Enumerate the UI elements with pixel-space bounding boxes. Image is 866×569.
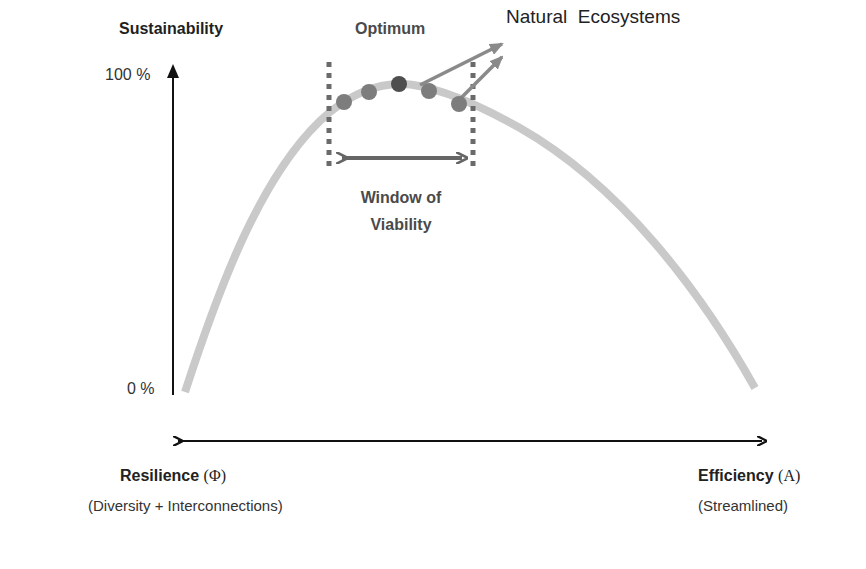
ecosystem-dot xyxy=(336,94,352,110)
resilience-sublabel: (Diversity + Interconnections) xyxy=(88,497,283,514)
optimum-dot xyxy=(391,76,407,92)
efficiency-label: Efficiency (A) xyxy=(698,467,800,485)
resilience-text: Resilience xyxy=(120,467,199,484)
y-tick-100: 100 % xyxy=(105,66,150,84)
y-tick-0: 0 % xyxy=(127,380,155,398)
y-axis-title: Sustainability xyxy=(119,20,223,38)
efficiency-sublabel: (Streamlined) xyxy=(698,497,788,514)
ecosystem-dot xyxy=(421,83,437,99)
y-axis-arrowhead xyxy=(167,64,179,78)
window-label-line1: Window of xyxy=(345,184,457,211)
resilience-label: Resilience (Φ) xyxy=(120,467,226,485)
window-label-line2: Viability xyxy=(345,211,457,238)
sustainability-curve xyxy=(185,84,755,392)
window-of-viability-label: Window of Viability xyxy=(345,184,457,238)
efficiency-text: Efficiency xyxy=(698,467,774,484)
a-symbol: (A) xyxy=(778,467,800,484)
ecosystem-dot xyxy=(361,84,377,100)
natural-ecosystems-label: Natural Ecosystems xyxy=(506,6,680,28)
phi-symbol: (Φ) xyxy=(204,467,226,484)
natural-ecosystems-pointer-1 xyxy=(420,44,502,85)
ecosystem-dot xyxy=(451,96,467,112)
optimum-label: Optimum xyxy=(355,20,425,38)
